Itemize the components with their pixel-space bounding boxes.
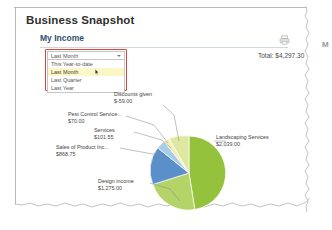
pie-label-discounts: Discounts given $-59.00 — [114, 91, 152, 104]
pie-label-text: Sales of Product Inc... — [56, 144, 109, 151]
pie-label-text: Landscaping Services — [216, 134, 269, 141]
pie-label-amount: $868.75 — [56, 151, 109, 158]
pie-label-amount: $1,275.00 — [98, 185, 134, 192]
sheet-top-edge — [14, 7, 306, 8]
torn-right-edge — [292, 6, 318, 212]
pie-label-services: Services $101.55 — [94, 127, 115, 140]
page-title: Business Snapshot — [26, 14, 134, 26]
mouse-cursor-icon — [95, 69, 99, 75]
period-option-label: Last Month — [51, 69, 78, 75]
pie-slices — [150, 136, 226, 211]
widget-divider — [40, 47, 288, 48]
pie-label-sales-of-product: Sales of Product Inc... $868.75 — [56, 144, 109, 157]
pie-label-amount: $101.55 — [94, 134, 115, 141]
period-option-last-quarter[interactable]: Last Quarter — [48, 76, 124, 84]
pie-label-pest-control: Pest Control Service... $70.00 — [68, 111, 122, 124]
pie-label-design-income: Design income $1,275.00 — [98, 178, 134, 191]
pie-label-amount: $2,039.00 — [216, 141, 269, 148]
income-pie-chart: Discounts given $-59.00 Pest Control Ser… — [40, 91, 288, 195]
pie-label-text: Services — [94, 127, 115, 134]
widget-title: My Income — [40, 33, 84, 43]
pie-label-landscaping: Landscaping Services $2,039.00 — [216, 134, 269, 147]
period-dropdown-menu[interactable]: This Year-to-date Last Month Last Quarte… — [47, 60, 125, 93]
partial-right-text: M — [322, 40, 329, 49]
period-option-this-year-to-date[interactable]: This Year-to-date — [48, 60, 124, 68]
print-icon[interactable] — [279, 35, 290, 45]
period-option-label: Last Quarter — [51, 77, 82, 83]
chevron-down-icon — [117, 55, 121, 57]
period-option-last-month[interactable]: Last Month — [48, 68, 124, 76]
leader-discounts — [163, 105, 179, 141]
period-option-label: This Year-to-date — [51, 61, 93, 67]
pie-label-amount: $-59.00 — [114, 98, 152, 105]
period-select[interactable]: Last Month — [47, 51, 125, 60]
my-income-widget: My Income Total: $4,297.30 Last Month Th… — [40, 33, 288, 195]
pie-label-amount: $70.00 — [68, 118, 122, 125]
snapshot-sheet: Business Snapshot My Income Total: $4,29… — [14, 6, 318, 212]
pie-label-text: Design income — [98, 178, 134, 185]
total-amount: Total: $4,297.30 — [258, 52, 304, 59]
leader-pest — [126, 116, 168, 143]
period-select-value: Last Month — [51, 53, 78, 59]
sheet-left-edge — [15, 7, 16, 205]
pie-label-text: Discounts given — [114, 91, 152, 98]
pie-label-text: Pest Control Service... — [68, 111, 122, 118]
